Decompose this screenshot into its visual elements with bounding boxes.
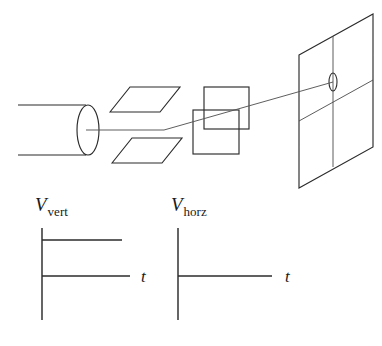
v-horz-time-label: t [285,267,291,286]
v-vert-axis-label: Vvert [35,194,68,219]
v-horz-label-sub: horz [184,204,207,219]
crt-figure-container: Vvert t Vhorz t [0,0,382,346]
electron-beam [86,82,333,130]
v-horz-axis-label: Vhorz [171,194,207,219]
crt-screen [299,14,373,188]
deflection-plate-front-square [193,110,239,154]
deflection-plate-lower [112,138,182,163]
vertical-deflection-plates [193,87,249,154]
plot-v-vert: Vvert t [35,194,147,320]
horizontal-deflection-plates [110,87,182,163]
plot-v-horz: Vhorz t [171,194,291,320]
crt-diagram: Vvert t Vhorz t [0,0,382,346]
v-vert-label-sub: vert [48,204,69,219]
v-vert-time-label: t [141,267,147,286]
deflection-plate-upper [110,87,180,112]
